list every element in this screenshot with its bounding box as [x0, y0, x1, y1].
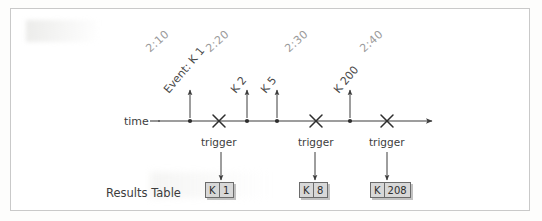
trigger-label-1: trigger — [298, 136, 333, 148]
page-frame — [10, 8, 530, 211]
result-key-1: K — [300, 183, 314, 197]
result-key-0: K — [206, 183, 220, 197]
trigger-label-2: trigger — [369, 136, 404, 148]
result-box-0: K 1 — [205, 182, 234, 198]
result-value-0: 1 — [220, 183, 233, 197]
result-value-1: 8 — [314, 183, 327, 197]
result-box-2: K 208 — [370, 182, 411, 198]
result-box-1: K 8 — [299, 182, 328, 198]
diagram-canvas: 2:10 2:20 2:30 2:40 Event: K 1 K 2 K 5 K… — [0, 0, 542, 221]
result-value-2: 208 — [385, 183, 410, 197]
trigger-label-0: trigger — [201, 136, 236, 148]
results-table-label: Results Table — [106, 186, 181, 200]
timeline-axis-label: time — [124, 115, 149, 128]
result-key-2: K — [371, 183, 385, 197]
